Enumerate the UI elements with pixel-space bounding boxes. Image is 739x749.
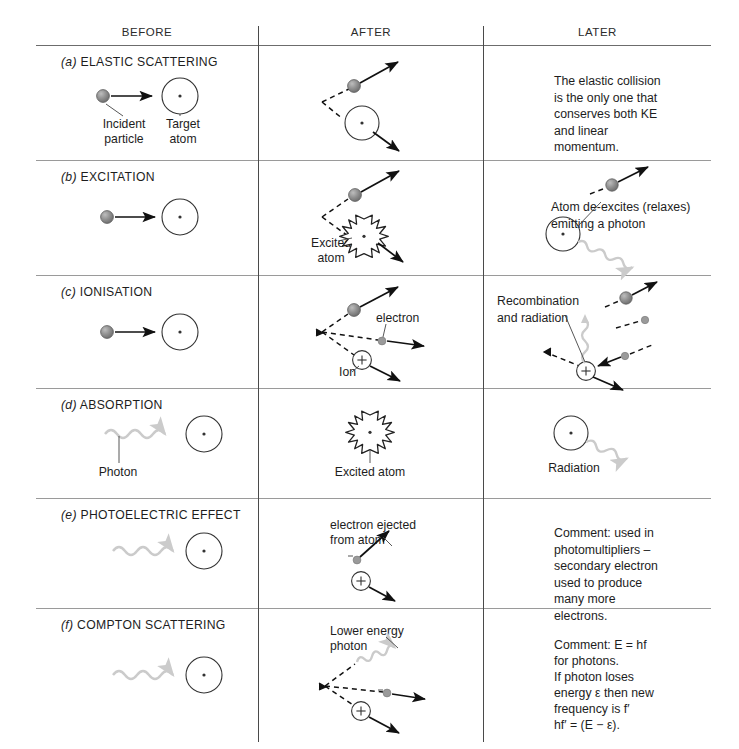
f-after-dash-to-electron xyxy=(325,686,383,692)
label-photon: Photon xyxy=(83,465,153,480)
c-before-target-atom xyxy=(162,314,198,350)
note-elastic-collision: The elastic collision is the only one th… xyxy=(554,73,714,156)
d-before-photon-wave xyxy=(105,430,165,438)
label-incident-particle: Incident particle xyxy=(86,117,162,147)
a-before-incident-particle xyxy=(97,90,110,103)
note-compton-line-1: Comment: E = hf xyxy=(554,637,729,654)
label-ion: Ion xyxy=(339,365,356,380)
f-after-ion xyxy=(352,702,371,721)
c-later-dash-left xyxy=(545,352,582,367)
note-compton-line-6: hf′ = (E − ε). xyxy=(554,717,729,734)
d-later-atom xyxy=(554,416,588,450)
note-compton-line-5: frequency is f′ xyxy=(554,701,729,718)
row-title-b: EXCITATION xyxy=(80,170,154,184)
note-recombination: Recombination and radiation xyxy=(497,293,647,326)
c-later-electron-incoming xyxy=(621,352,628,359)
note-compton-line-3: If photon loses xyxy=(554,669,729,686)
row-prefix-d: (d) xyxy=(61,398,77,412)
column-header-before: BEFORE xyxy=(36,26,258,38)
row-prefix-c: (c) xyxy=(61,285,76,299)
label-lower-energy-photon: Lower energy photon xyxy=(330,624,404,654)
a-after-dash-to-atom xyxy=(322,102,343,119)
c-after-ion-arrow xyxy=(370,366,400,381)
header-rule xyxy=(36,45,711,46)
note-atom-deexcites: Atom de-excites (relaxes) emitting a pho… xyxy=(551,199,731,232)
f-after-ion-arrow xyxy=(369,717,399,733)
b-after-dash-to-atom xyxy=(322,217,348,236)
label-radiation: Radiation xyxy=(534,461,614,476)
b-after-scattered-particle xyxy=(349,189,362,202)
a-after-particle-arrow xyxy=(360,62,398,83)
row-label-photoelectric-effect: (e) PHOTOELECTRIC EFFECT xyxy=(61,508,241,522)
c-later-dash-electron-incoming xyxy=(630,345,652,354)
c-after-scattered-particle xyxy=(348,304,361,317)
e-before-target-atom xyxy=(186,533,222,569)
column-divider-after-later xyxy=(483,26,484,742)
a-after-atom-recoil-arrow xyxy=(373,132,399,151)
row-title-c: IONISATION xyxy=(80,285,153,299)
label-electron: electron xyxy=(376,311,419,326)
b-after-particle-arrow xyxy=(361,171,399,192)
b-later-dash-particle xyxy=(590,189,603,194)
label-target-atom: Target atom xyxy=(152,117,214,147)
b-later-particle-arrow xyxy=(618,167,648,182)
b-after-dash-to-particle xyxy=(322,199,348,217)
e-after-ion xyxy=(352,572,371,591)
c-after-dash-to-particle xyxy=(322,314,348,332)
column-divider-before-after xyxy=(258,26,259,742)
row-rule-d-e xyxy=(36,498,711,499)
note-compton-line-4: energy ε then new xyxy=(554,685,729,702)
a-leader-incident xyxy=(106,104,123,116)
f-after-dash-to-photon xyxy=(325,664,355,686)
a-after-scattered-particle xyxy=(348,80,361,93)
c-after-particle-arrow xyxy=(360,287,398,307)
f-before-target-atom xyxy=(186,657,222,693)
b-before-incident-particle xyxy=(101,211,114,224)
b-later-particle xyxy=(606,179,618,191)
row-title-a: ELASTIC SCATTERING xyxy=(80,55,217,69)
b-before-target-atom xyxy=(162,199,198,235)
c-after-electron xyxy=(378,337,386,345)
c-after-electron-arrow xyxy=(387,341,424,346)
c-later-dash-left-tick xyxy=(544,348,551,356)
d-later-radiation-wave xyxy=(585,439,628,462)
label-excited-atom-absorption: Excited atom xyxy=(320,465,420,480)
c-later-ion xyxy=(577,362,596,381)
row-rule-b-c xyxy=(36,275,711,276)
f-after-dash-to-ion xyxy=(325,686,353,705)
row-rule-a-b xyxy=(36,160,711,161)
f-after-vertex-tick xyxy=(319,683,326,690)
row-prefix-a: (a) xyxy=(61,55,77,69)
note-compton-line-2: for photons. xyxy=(554,653,729,670)
note-photomultipliers: Comment: used in photomultipliers – seco… xyxy=(554,525,714,625)
a-before-target-atom xyxy=(162,78,198,114)
row-title-e: PHOTOELECTRIC EFFECT xyxy=(80,508,240,522)
b-later-emitted-photon-wave xyxy=(577,239,634,270)
label-excited-atom: Excited atom xyxy=(300,236,362,266)
row-label-excitation: (b) EXCITATION xyxy=(61,170,155,184)
d-before-target-atom xyxy=(186,416,222,452)
a-after-recoil-atom xyxy=(345,106,379,140)
a-after-dash-to-particle xyxy=(322,89,349,102)
c-before-incident-particle xyxy=(101,326,114,339)
label-electron-ejected: electron ejected from atom xyxy=(330,518,416,548)
column-header-after: AFTER xyxy=(259,26,483,38)
f-after-electron-arrow xyxy=(392,694,425,699)
row-title-d: ABSORPTION xyxy=(80,398,163,412)
e-before-photon-wave xyxy=(113,547,173,555)
e-after-ion-arrow xyxy=(369,587,395,601)
row-title-f: COMPTON SCATTERING xyxy=(77,618,226,632)
c-after-dash-to-ion xyxy=(322,332,354,355)
row-prefix-f: (f) xyxy=(61,618,73,632)
c-after-vertex-tick xyxy=(316,329,323,336)
row-rule-c-d xyxy=(36,388,711,389)
row-prefix-e: (e) xyxy=(61,508,77,522)
column-header-later: LATER xyxy=(484,26,711,38)
f-before-photon-wave xyxy=(113,671,173,679)
f-after-electron xyxy=(378,689,391,697)
physics-interaction-table: BEFORE AFTER LATER (a) ELASTIC SCATTERIN… xyxy=(0,0,739,749)
row-label-ionisation: (c) IONISATION xyxy=(61,285,152,299)
b-after-atom-recoil-arrow xyxy=(378,243,403,262)
row-label-compton-scattering: (f) COMPTON SCATTERING xyxy=(61,618,226,632)
row-prefix-b: (b) xyxy=(61,170,77,184)
